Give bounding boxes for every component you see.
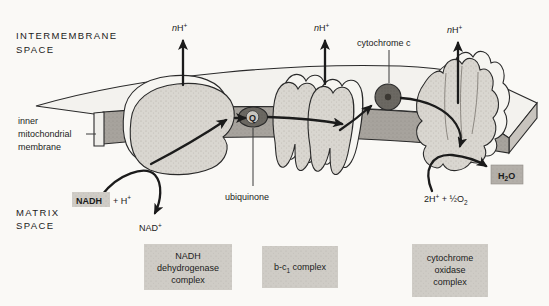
complex3-line3: complex xyxy=(433,277,467,287)
cytochrome-c-label: cytochrome c xyxy=(357,38,411,48)
membrane-left-cut xyxy=(94,112,104,146)
complex1-line1: NADH xyxy=(175,251,201,261)
matrix-space-label-line1: MATRIX xyxy=(16,207,60,218)
legend-complex1: NADH dehydrogenase complex xyxy=(144,244,232,290)
legend-complex2: b-c1 complex xyxy=(262,246,338,288)
ubiquinone-label: ubiquinone xyxy=(225,192,269,202)
nadh-to-nad-arrow xyxy=(102,171,160,213)
q-label: Q xyxy=(249,113,256,123)
cytochrome-c-carrier xyxy=(375,84,401,110)
diagram-canvas: Q INTERMEMBRANE SPACE MATRIX SPACE inner… xyxy=(0,0,549,306)
complex3-line2: oxidase xyxy=(434,265,465,275)
legend-complex3: cytochrome oxidase complex xyxy=(412,244,488,297)
nadh-label: NADH xyxy=(76,196,102,206)
complex1-line2: dehydrogenase xyxy=(157,263,219,273)
nadh-dehydrogenase-complex-shape xyxy=(130,83,234,174)
oxygen-label: 2H+ + ½O2 xyxy=(424,193,468,206)
complex1-line3: complex xyxy=(171,275,205,285)
complex3-line1: cytochrome xyxy=(427,253,474,263)
proton-label-3: nH+ xyxy=(447,24,463,36)
nad-label: NAD+ xyxy=(139,222,162,234)
inner-membrane-label-line1: inner xyxy=(18,116,38,126)
intermembrane-space-label-line2: SPACE xyxy=(16,44,55,55)
matrix-space-label-line2: SPACE xyxy=(16,220,55,231)
inner-membrane-label-line3: membrane xyxy=(18,142,61,152)
complex2-label: b-c1 complex xyxy=(274,262,327,274)
intermembrane-space-label-line1: INTERMEMBRANE xyxy=(16,30,118,41)
figure-electron-transport-chain: Q INTERMEMBRANE SPACE MATRIX SPACE inner… xyxy=(0,0,549,306)
nadh-plus-h-label: + H+ xyxy=(113,194,131,206)
inner-membrane-label-line2: mitochondrial xyxy=(18,129,72,139)
proton-label-2: nH+ xyxy=(314,22,330,34)
proton-label-1: nH+ xyxy=(172,22,188,34)
